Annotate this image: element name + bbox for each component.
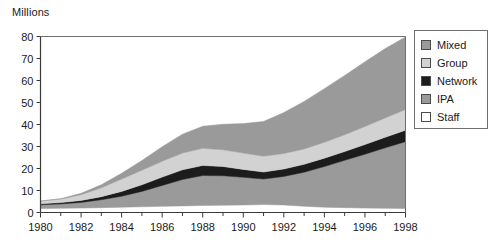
x-tick-label: 1994: [312, 221, 336, 233]
x-tick-label: 1980: [28, 221, 52, 233]
chart-container: Millions 0102030405060708019801982198419…: [0, 0, 497, 249]
legend-item-label: Mixed: [437, 40, 466, 51]
legend-swatch-icon: [421, 94, 431, 104]
y-tick-label: 30: [21, 141, 33, 153]
x-tick-label: 1984: [109, 221, 133, 233]
y-tick-label: 0: [27, 207, 33, 219]
y-tick-label: 10: [21, 185, 33, 197]
x-tick-label: 1986: [150, 221, 174, 233]
legend-item-group[interactable]: Group: [421, 54, 487, 72]
x-tick-label: 1990: [231, 221, 255, 233]
legend-item-network[interactable]: Network: [421, 72, 487, 90]
legend-swatch-icon: [421, 76, 431, 86]
legend-item-label: Staff: [437, 112, 459, 123]
y-tick-label: 40: [21, 119, 33, 131]
legend-item-label: IPA: [437, 94, 454, 105]
x-tick-label: 1988: [190, 221, 214, 233]
y-tick-label: 20: [21, 163, 33, 175]
x-tick-label: 1998: [393, 221, 417, 233]
legend-swatch-icon: [421, 58, 431, 68]
chart-legend: MixedGroupNetworkIPAStaff: [414, 30, 488, 129]
legend-swatch-icon: [421, 112, 431, 122]
legend-item-staff[interactable]: Staff: [421, 108, 487, 126]
y-tick-label: 50: [21, 97, 33, 109]
x-tick-label: 1982: [69, 221, 93, 233]
legend-swatch-icon: [421, 40, 431, 50]
x-tick-label: 1992: [272, 221, 296, 233]
legend-item-label: Group: [437, 58, 468, 69]
y-tick-label: 80: [21, 31, 33, 43]
legend-item-ipa[interactable]: IPA: [421, 90, 487, 108]
legend-item-mixed[interactable]: Mixed: [421, 36, 487, 54]
y-tick-label: 60: [21, 75, 33, 87]
x-tick-label: 1996: [353, 221, 377, 233]
legend-item-label: Network: [437, 76, 477, 87]
y-tick-label: 70: [21, 53, 33, 65]
